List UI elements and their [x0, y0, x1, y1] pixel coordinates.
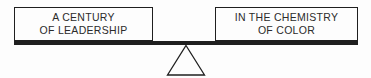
- right-label-box: IN THE CHEMISTRY OF COLOR: [215, 7, 358, 41]
- right-label-line2: OF COLOR: [258, 24, 315, 37]
- fulcrum-triangle-icon: [166, 44, 206, 77]
- left-label-line1: A CENTURY: [52, 11, 115, 24]
- balance-diagram: A CENTURY OF LEADERSHIP IN THE CHEMISTRY…: [0, 0, 371, 78]
- right-label-line1: IN THE CHEMISTRY: [235, 11, 339, 24]
- left-label-line2: OF LEADERSHIP: [40, 24, 128, 37]
- left-label-box: A CENTURY OF LEADERSHIP: [14, 7, 153, 41]
